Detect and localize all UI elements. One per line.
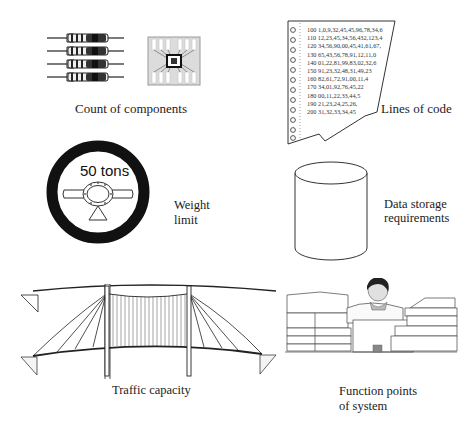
code-line: 110 12,23,45,34,56,432,123,4 (307, 34, 382, 42)
person-with-paper-stacks-icon (285, 278, 460, 370)
weight-sign-text: 50 tons (80, 162, 129, 179)
code-line: 150 91,23,32,48,31,49,23 (307, 67, 372, 75)
code-line: 190 21,23,24,25,26, (307, 100, 357, 108)
components-label: Count of components (75, 101, 187, 116)
code-line: 140 01,22,81,99,83,02,32,6 (307, 59, 376, 67)
weight-limit-sign-icon (46, 140, 150, 244)
weight-label-line2: limit (174, 213, 198, 228)
code-label: Lines of code (381, 101, 452, 116)
database-cylinder-icon (293, 160, 369, 264)
code-line: 170 34,01,92,76,45,22 (307, 83, 364, 91)
function-points-label-line2: of system (339, 399, 387, 414)
code-line: 100 1,0,9,32,45,45,96,78,34,6 (307, 26, 383, 34)
code-line: 120 34,56,90,00,45,41,61,67, (307, 42, 381, 50)
code-line: 130 65,43,56,78,91,12,11,0 (307, 51, 376, 59)
microchip-icon (147, 36, 201, 86)
resistors-icon (44, 30, 126, 88)
suspension-bridge-icon (0, 270, 290, 380)
storage-label-line1: Data storage (384, 197, 447, 212)
weight-label-line1: Weight (174, 198, 210, 213)
function-points-label-line1: Function points (339, 384, 417, 399)
storage-label-line2: requirements (384, 211, 449, 226)
code-line: 160 82,61,72,91,00,11,4 (307, 75, 368, 83)
code-line: 180 00,11,22,33,44,5 (307, 92, 360, 100)
traffic-label: Traffic capacity (112, 383, 191, 398)
code-line: 200 31,32,33,34,45 (307, 108, 356, 116)
